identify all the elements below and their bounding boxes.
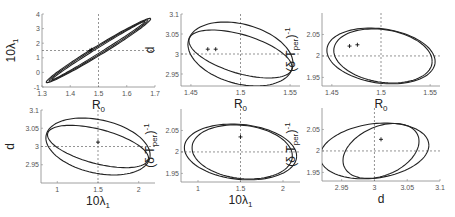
x-tick-label: 1 (55, 186, 59, 193)
y-tick-label: -1 (34, 84, 40, 91)
x-tick-label: 3.05 (400, 184, 414, 191)
x-tick-label: 1.45 (325, 89, 339, 96)
y-tick-label: 1.95 (165, 170, 179, 177)
y-tick-label: 0 (36, 69, 40, 76)
y-tick-label: 2.05 (306, 126, 320, 133)
y-tick-label: 4 (36, 11, 40, 18)
x-axis-label: R0 (92, 98, 106, 114)
x-tick-label: 1.45 (184, 89, 198, 96)
y-tick-label: 2 (175, 148, 179, 155)
panel-bottom-left: 11.522.9533.053.110λ1 d (3, 107, 155, 211)
y-tick-label: 1 (36, 54, 40, 61)
estimate-marker (348, 44, 352, 48)
x-axis-label: R0 (374, 97, 388, 113)
y-tick-label: 1.95 (306, 169, 320, 176)
y-tick-label: 3.1 (169, 11, 179, 18)
y-tick-label: 2.95 (165, 71, 179, 78)
x-tick-label: 1.55 (283, 89, 297, 96)
y-tick-label: 2.05 (165, 127, 179, 134)
x-tick-label: 2.95 (335, 184, 349, 191)
panel-bottom-middle: 11.521.9522.0510λ1 (δ Tper )-1 (142, 109, 300, 209)
x-tick-label: 1.5 (93, 186, 103, 193)
y-axis-label: d (143, 47, 157, 54)
y-axis-label: (δ Tper )-1 (142, 123, 159, 168)
x-tick-label: 1 (196, 185, 200, 192)
x-tick-label: 3 (372, 184, 376, 191)
figure-grid: 1.31.41.51.61.7-101234R0 10λ1 1.451.51.5… (0, 0, 455, 217)
y-tick-label: 2 (316, 147, 320, 154)
y-axis-label: (δ Tper )-1 (283, 122, 300, 167)
estimate-marker (96, 140, 100, 144)
x-tick-label: 1.5 (236, 185, 246, 192)
x-tick-label: 1.6 (122, 90, 132, 97)
panel-top-right: 1.451.51.551.9522.05R0 (δ Tper )-1 (283, 13, 440, 113)
y-tick-label: 2.05 (306, 31, 320, 38)
x-tick-label: 1.55 (423, 89, 437, 96)
y-axis-label: 10λ1 (4, 38, 20, 62)
x-tick-label: 1.5 (236, 89, 246, 96)
y-tick-label: 3 (35, 143, 39, 150)
y-tick-label: 3 (36, 25, 40, 32)
estimate-marker (214, 47, 218, 51)
y-tick-label: 2 (316, 52, 320, 59)
panel-bottom-right: 2.9533.053.11.9522.05d(δ Tper )-1 (283, 108, 445, 206)
y-tick-label: 3.1 (29, 107, 39, 114)
x-tick-label: 1.3 (37, 90, 47, 97)
y-axis-label: d (3, 143, 17, 150)
x-axis-label: d (378, 192, 385, 206)
x-axis-label: 10λ1 (86, 194, 110, 210)
y-tick-label: 3.05 (165, 31, 179, 38)
x-tick-label: 1.5 (376, 89, 386, 96)
panel-top-left: 1.31.41.51.61.7-101234R0 10λ1 (4, 11, 160, 115)
estimate-marker (206, 47, 210, 51)
y-tick-label: 1.95 (306, 74, 320, 81)
x-tick-label: 2 (137, 186, 141, 193)
estimate-marker (239, 135, 243, 139)
x-tick-label: 1.7 (150, 90, 160, 97)
x-tick-label: 2 (281, 185, 285, 192)
x-tick-label: 1.4 (65, 90, 75, 97)
x-axis-label: 10λ1 (229, 193, 253, 209)
y-axis-label: (δ Tper )-1 (283, 27, 300, 72)
y-tick-label: 3 (175, 51, 179, 58)
y-tick-label: 2 (36, 40, 40, 47)
x-tick-label: 1.5 (94, 90, 104, 97)
y-tick-label: 2.95 (25, 161, 39, 168)
estimate-marker (355, 43, 359, 47)
estimate-marker (379, 137, 383, 141)
y-tick-label: 3.05 (25, 125, 39, 132)
x-tick-label: 3.1 (435, 184, 445, 191)
panel-top-middle: 1.451.51.552.9533.053.1R0 d (143, 11, 300, 114)
